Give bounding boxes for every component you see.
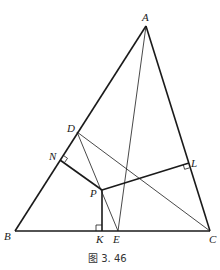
right-angle-marker-L (183, 165, 189, 170)
point-label-N: N (48, 150, 57, 162)
right-angle-marker-K (96, 225, 102, 231)
figure-caption: 图 3. 46 (88, 253, 127, 264)
point-label-A: A (141, 11, 149, 23)
segment-AC (146, 26, 210, 231)
point-label-D: D (66, 122, 75, 134)
segment-PL (102, 163, 189, 190)
segment-AE (118, 26, 146, 231)
segment-AB (15, 26, 146, 231)
point-label-L: L (190, 157, 197, 169)
point-label-P: P (89, 187, 97, 199)
point-label-K: K (95, 233, 104, 245)
point-label-C: C (209, 233, 217, 245)
geometry-figure: A B C D N P L K E 图 3. 46 (0, 0, 220, 270)
segment-DC (77, 132, 210, 231)
point-label-B: B (4, 230, 11, 242)
right-angle-marker-N (64, 156, 68, 163)
segment-PN (60, 160, 102, 190)
point-label-E: E (112, 233, 120, 245)
